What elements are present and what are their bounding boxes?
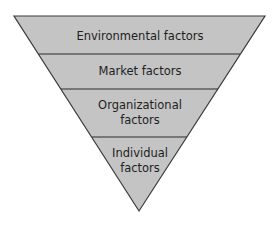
- level-organizational-factors: Organizational factors: [70, 98, 210, 128]
- level-label: Environmental factors: [76, 29, 203, 43]
- level-label: Market factors: [99, 64, 182, 78]
- level-environmental-factors: Environmental factors: [40, 29, 240, 44]
- level-individual-factors: Individual factors: [90, 146, 190, 176]
- level-market-factors: Market factors: [60, 64, 220, 79]
- level-label-line1: Individual: [90, 146, 190, 161]
- level-label-line2: factors: [70, 113, 210, 128]
- level-label-line2: factors: [90, 161, 190, 176]
- level-label-line1: Organizational: [70, 98, 210, 113]
